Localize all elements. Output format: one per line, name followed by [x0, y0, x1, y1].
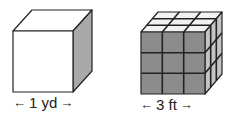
cube-1-yard-front-face	[13, 31, 73, 92]
label-3-feet: 3 ft	[156, 96, 177, 113]
right-arrow-icon: →	[180, 97, 193, 112]
dimension-label-3-feet: ← 3 ft →	[140, 96, 193, 113]
label-1-yard: 1 yd	[29, 94, 57, 111]
cube-1-yard	[13, 10, 92, 92]
left-arrow-icon: ←	[13, 95, 26, 110]
dimension-label-1-yard: ← 1 yd →	[13, 94, 73, 111]
cube-3-feet	[141, 12, 222, 94]
cube-3-feet-front-face	[141, 32, 205, 94]
right-arrow-icon: →	[60, 95, 73, 110]
left-arrow-icon: ←	[140, 97, 153, 112]
